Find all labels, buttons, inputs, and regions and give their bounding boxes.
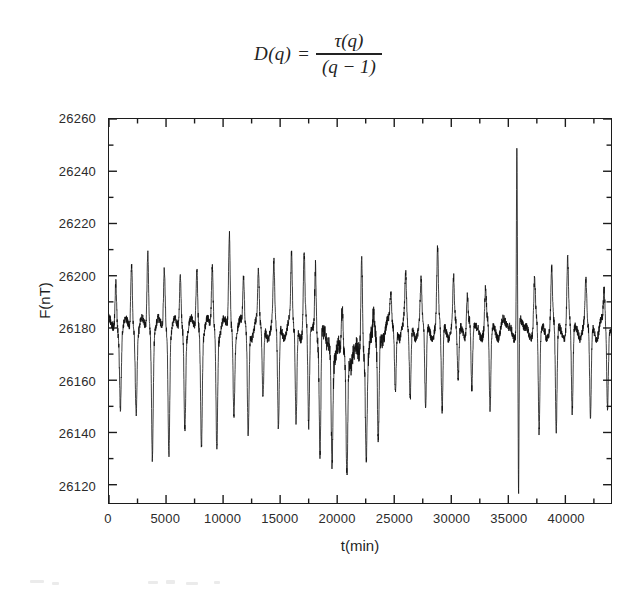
y-tick-label: 26120 — [0, 478, 96, 493]
x-tick-label: 10000 — [204, 511, 241, 526]
x-tick-label: 20000 — [319, 511, 356, 526]
series-line-F — [109, 148, 611, 493]
equation-block: D(q) = τ(q) (q − 1) — [0, 14, 636, 94]
equation-equals-sign: = — [298, 43, 309, 65]
equation-formula: D(q) = τ(q) (q − 1) — [254, 30, 382, 77]
y-tick-label: 26140 — [0, 426, 96, 441]
equation-lhs: D(q) — [254, 43, 291, 65]
x-axis-title: t(min) — [108, 537, 612, 554]
y-tick-label: 26160 — [0, 373, 96, 388]
x-tick-label: 5000 — [150, 511, 180, 526]
x-tick-label: 30000 — [433, 511, 470, 526]
scan-artifacts — [0, 566, 636, 589]
equation-numerator: τ(q) — [328, 30, 369, 53]
x-tick-label: 15000 — [261, 511, 298, 526]
time-series-chart: 2612026140261602618026200262202624026260… — [0, 96, 636, 566]
y-tick-label: 26240 — [0, 163, 96, 178]
plot-svg — [109, 119, 611, 503]
x-tick-label: 35000 — [490, 511, 527, 526]
x-tick-label: 25000 — [376, 511, 413, 526]
plot-frame — [108, 118, 612, 504]
y-tick-label: 26260 — [0, 111, 96, 126]
y-axis-title: F(nT) — [36, 251, 53, 351]
equation-denominator: (q − 1) — [316, 55, 382, 78]
x-tick-label: 40000 — [548, 511, 585, 526]
x-tick-label: 0 — [104, 511, 111, 526]
axis-ticks — [109, 119, 611, 503]
y-tick-label: 26220 — [0, 216, 96, 231]
equation-fraction: τ(q) (q − 1) — [316, 30, 382, 77]
